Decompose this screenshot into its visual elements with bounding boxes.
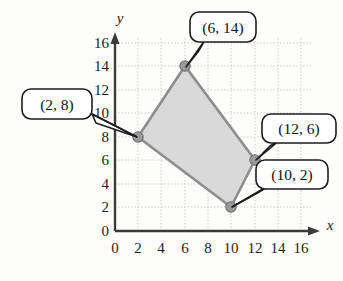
y-tick-label-2: 2 bbox=[102, 199, 110, 215]
plot-svg: 0 2 4 6 8 10 12 14 16 0 2 4 6 8 10 12 14… bbox=[0, 0, 343, 281]
y-tick-label-16: 16 bbox=[94, 35, 110, 51]
y-tick-label-4: 4 bbox=[102, 176, 110, 192]
coordinate-plot-figure: 0 2 4 6 8 10 12 14 16 0 2 4 6 8 10 12 14… bbox=[0, 0, 343, 281]
x-tick-label-16: 16 bbox=[294, 240, 310, 256]
x-tick-label-10: 10 bbox=[224, 240, 239, 256]
x-axis-label: x bbox=[326, 217, 334, 233]
x-tick-label-8: 8 bbox=[204, 240, 212, 256]
callout-label-10-2: (10, 2) bbox=[271, 166, 312, 184]
x-tick-labels: 0 2 4 6 8 10 12 14 16 bbox=[111, 240, 309, 256]
y-axis-label: y bbox=[115, 10, 124, 26]
callout-label-12-6: (12, 6) bbox=[278, 120, 319, 138]
y-tick-label-0: 0 bbox=[102, 223, 110, 239]
point-marker-10-2[interactable] bbox=[226, 202, 236, 212]
x-tick-label-2: 2 bbox=[134, 240, 142, 256]
x-tick-label-4: 4 bbox=[157, 240, 165, 256]
callout-label-6-14: (6, 14) bbox=[202, 19, 243, 37]
y-tick-label-8: 8 bbox=[102, 129, 110, 145]
x-tick-label-14: 14 bbox=[271, 240, 287, 256]
point-marker-2-8[interactable] bbox=[133, 132, 143, 142]
y-tick-label-12: 12 bbox=[94, 82, 109, 98]
x-tick-label-12: 12 bbox=[248, 240, 263, 256]
callout-label-2-8: (2, 8) bbox=[40, 96, 74, 114]
x-tick-label-6: 6 bbox=[181, 240, 189, 256]
y-tick-label-6: 6 bbox=[102, 152, 110, 168]
x-tick-label-0: 0 bbox=[111, 240, 119, 256]
y-tick-label-14: 14 bbox=[94, 58, 110, 74]
